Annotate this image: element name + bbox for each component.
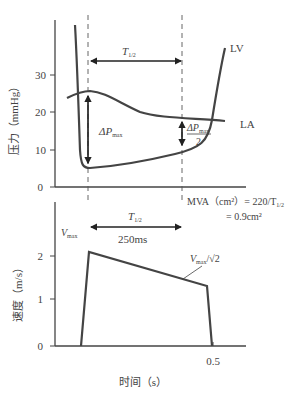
vmax-label: Vmax [61, 227, 77, 239]
dp-half-label: ΔPmax [186, 122, 209, 134]
y-tick: 20 [35, 106, 47, 118]
mva-formula: MVA（cm²）= 220/T1/2 [187, 196, 284, 208]
la-curve [67, 91, 225, 121]
velocity-trace [81, 252, 212, 346]
y-tick: 10 [35, 144, 47, 156]
vroot-leader [183, 266, 202, 279]
y-axis-label: 速度（m/s） [11, 262, 24, 322]
dp-max-label: ΔPmax [98, 125, 123, 138]
x-tick: 0.5 [206, 355, 220, 367]
velocity-chart: 0 1 2 0.5 速度（m/s） 时间（s） T1/2 250ms Vmax … [11, 196, 284, 388]
y-tick: 0 [38, 340, 44, 352]
y-tick: 2 [38, 250, 44, 262]
pressure-half-time-figure: 0 10 20 30 压力（mmHg） LV LA T1/2 ΔPmax ΔPm… [0, 0, 287, 401]
y-tick: 1 [38, 293, 44, 305]
y-tick: 0 [38, 181, 44, 193]
dp-half-denominator: 2 [196, 136, 201, 147]
x-axis-label: 时间（s） [119, 376, 167, 388]
t-half-label: T1/2 [128, 210, 142, 223]
ms-label: 250ms [118, 233, 147, 245]
y-axis-label: 压力（mmHg） [8, 81, 20, 156]
lv-label: LV [230, 42, 244, 54]
la-label: LA [240, 118, 255, 130]
vroot-label: Vmax/√2 [190, 253, 220, 265]
lv-curve [75, 25, 225, 168]
mva-result: = 0.9cm² [226, 211, 262, 222]
pressure-chart: 0 10 20 30 压力（mmHg） LV LA T1/2 ΔPmax ΔPm… [8, 15, 255, 200]
t-half-label: T1/2 [122, 45, 136, 58]
y-tick: 30 [35, 69, 47, 81]
